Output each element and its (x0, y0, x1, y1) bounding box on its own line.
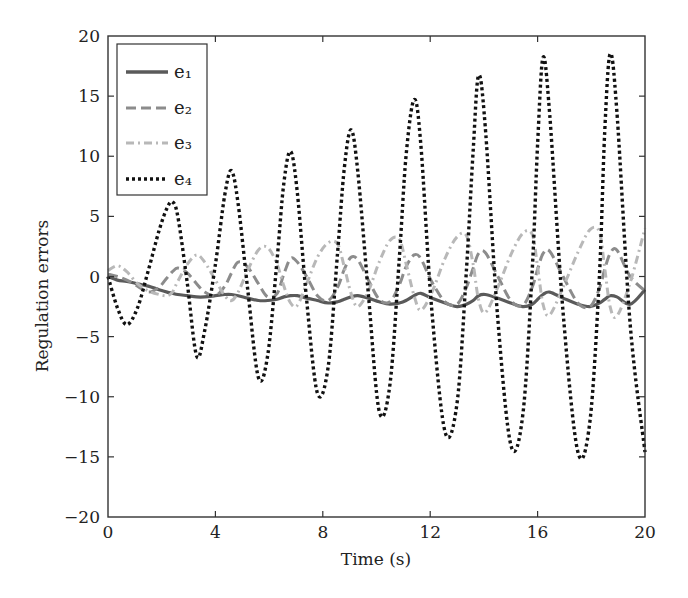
y-tick-label: 0 (89, 267, 100, 287)
legend-label-e4: e₄ (174, 168, 192, 189)
x-axis-label: Time (s) (341, 549, 411, 569)
legend-label-e2: e₂ (174, 97, 192, 118)
y-tick-label: −15 (64, 447, 100, 467)
y-tick-label: 10 (78, 146, 100, 166)
x-tick-label: 8 (317, 522, 328, 542)
x-tick-label: 12 (419, 522, 441, 542)
x-tick-label: 0 (103, 522, 114, 542)
legend-label-e1: e₁ (174, 61, 192, 82)
legend-box (117, 44, 207, 195)
y-tick-label: 15 (78, 86, 100, 106)
legend-label-e3: e₃ (174, 132, 192, 153)
y-tick-label: 20 (78, 26, 100, 46)
legend: e₁ e₂ e₃ e₄ (117, 44, 207, 195)
x-tick-label: 16 (527, 522, 549, 542)
y-tick-label: −10 (64, 387, 100, 407)
y-axis-label: Regulation errors (32, 220, 52, 373)
y-tick-label: 5 (89, 206, 100, 226)
y-tick-label: −20 (64, 507, 100, 527)
y-tick-label: −5 (75, 327, 100, 347)
regulation-errors-chart: 048121620−20−15−10−505101520 Time (s) Re… (0, 0, 688, 598)
x-tick-label: 4 (210, 522, 221, 542)
x-tick-label: 20 (634, 522, 656, 542)
